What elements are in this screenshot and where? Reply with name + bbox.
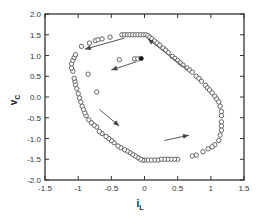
data-point [79,100,83,104]
data-point [87,118,91,122]
arrow-icon [99,109,119,126]
data-point [69,66,73,70]
data-point [219,124,223,128]
data-point [217,138,221,142]
y-tick-label: 2.0 [30,10,42,19]
data-point [87,41,91,45]
data-point [100,37,104,41]
x-tick-label: 0 [142,184,147,193]
data-point [199,79,203,83]
x-tick-label: -1.5 [38,184,52,193]
data-point [218,104,222,108]
data-point [206,147,210,151]
data-point [190,70,194,74]
data-point [97,129,101,133]
data-point [201,150,205,154]
data-point [116,144,120,148]
data-point [76,91,80,95]
x-axis-label: iL [136,198,144,211]
data-point [108,35,112,39]
data-point [219,128,223,132]
arrow-annotations [85,38,189,141]
data-point [218,133,222,137]
arrow-icon [148,39,188,70]
y-tick-label: 0.5 [30,72,42,81]
x-tick-label: -1 [75,184,83,193]
y-tick-label: -1.5 [27,155,41,164]
y-tick-label: 1.5 [30,31,42,40]
y-tick-label: 1.0 [30,52,42,61]
data-point [86,72,90,76]
y-tick-label: 0.0 [30,93,42,102]
x-tick-label: 1.5 [238,184,250,193]
data-point [73,52,77,56]
arrow-icon [164,134,189,140]
data-point [219,109,223,113]
data-point [190,154,194,158]
data-point [95,90,99,94]
data-point [72,76,76,80]
data-point [80,104,84,108]
data-point [79,44,83,48]
data-point [217,100,221,104]
y-tick-label: -1.0 [27,135,41,144]
y-tick-label: -2.0 [27,176,41,185]
arrow-icon [111,62,136,71]
initial-point [139,56,143,60]
y-axis-label: vC [8,95,21,106]
data-points [69,33,223,163]
data-point [219,120,223,124]
x-tick-label: 1 [209,184,214,193]
data-point [75,87,79,91]
data-point [219,113,223,117]
phase-plot: -1.5-1-0.500.511.5 2.01.51.00.50.0-0.5-1… [0,0,263,222]
x-tick-label: 0.5 [172,184,184,193]
x-tick-label: -0.5 [104,184,118,193]
y-tick-label: -0.5 [27,114,41,123]
data-point [117,57,121,61]
data-point [104,134,108,138]
data-point [77,96,81,100]
